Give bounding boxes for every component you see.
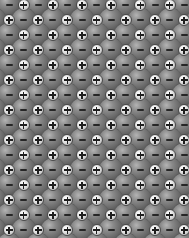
minus-icon	[49, 49, 56, 51]
minus-icon	[137, 199, 144, 201]
minus-icon	[181, 184, 188, 186]
minus-icon	[137, 139, 144, 141]
minus-icon	[20, 49, 27, 51]
plus-icon	[64, 227, 71, 234]
plus-icon	[35, 107, 42, 114]
plus-icon	[166, 212, 173, 219]
cation-sphere	[120, 164, 132, 176]
minus-icon	[64, 154, 71, 156]
plus-icon	[122, 17, 129, 24]
minus-icon	[152, 64, 159, 66]
plus-icon	[79, 92, 86, 99]
cation-sphere	[120, 44, 132, 56]
plus-icon	[93, 137, 100, 144]
plus-icon	[20, 62, 27, 69]
cation-sphere	[3, 194, 15, 206]
plus-icon	[152, 47, 159, 54]
minus-icon	[93, 94, 100, 96]
cation-sphere	[91, 164, 103, 176]
cation-sphere	[3, 164, 15, 176]
cation-sphere	[47, 89, 59, 101]
minus-icon	[108, 109, 115, 111]
minus-icon	[166, 139, 173, 141]
minus-icon	[122, 154, 129, 156]
cation-sphere	[149, 104, 161, 116]
cation-sphere	[91, 104, 103, 116]
plus-icon	[152, 107, 159, 114]
cation-sphere	[91, 14, 103, 26]
minus-icon	[137, 109, 144, 111]
plus-icon	[181, 77, 188, 84]
minus-icon	[6, 34, 13, 36]
plus-icon	[49, 2, 56, 9]
minus-icon	[64, 4, 71, 6]
plus-icon	[93, 227, 100, 234]
minus-icon	[93, 124, 100, 126]
plus-icon	[181, 107, 188, 114]
minus-icon	[49, 229, 56, 231]
minus-icon	[152, 214, 159, 216]
minus-icon	[137, 169, 144, 171]
minus-icon	[64, 34, 71, 36]
plus-icon	[93, 77, 100, 84]
cation-sphere	[18, 59, 30, 71]
plus-icon	[93, 47, 100, 54]
minus-icon	[20, 109, 27, 111]
cation-sphere	[3, 134, 15, 146]
plus-icon	[137, 212, 144, 219]
plus-icon	[64, 77, 71, 84]
minus-icon	[93, 214, 100, 216]
plus-icon	[108, 92, 115, 99]
minus-icon	[166, 109, 173, 111]
minus-icon	[166, 49, 173, 51]
plus-icon	[122, 197, 129, 204]
cation-sphere	[164, 89, 176, 101]
cation-sphere	[120, 104, 132, 116]
minus-icon	[108, 79, 115, 81]
cation-sphere	[120, 14, 132, 26]
minus-icon	[122, 4, 129, 6]
minus-icon	[108, 169, 115, 171]
plus-icon	[35, 197, 42, 204]
cation-sphere	[3, 104, 15, 116]
minus-icon	[166, 199, 173, 201]
ion-lattice	[0, 0, 189, 238]
plus-icon	[49, 122, 56, 129]
plus-icon	[79, 152, 86, 159]
cation-sphere	[76, 209, 88, 221]
plus-icon	[108, 152, 115, 159]
cation-sphere	[3, 14, 15, 26]
cation-sphere	[164, 179, 176, 191]
cation-sphere	[178, 164, 189, 176]
minus-icon	[20, 229, 27, 231]
minus-icon	[108, 49, 115, 51]
plus-icon	[20, 152, 27, 159]
minus-icon	[6, 4, 13, 6]
plus-icon	[122, 137, 129, 144]
cation-sphere	[149, 224, 161, 236]
cation-sphere	[47, 59, 59, 71]
minus-icon	[108, 199, 115, 201]
minus-icon	[35, 124, 42, 126]
cation-sphere	[18, 209, 30, 221]
minus-icon	[79, 79, 86, 81]
cation-sphere	[120, 134, 132, 146]
cation-sphere	[76, 59, 88, 71]
minus-icon	[181, 124, 188, 126]
cation-sphere	[3, 44, 15, 56]
plus-icon	[6, 197, 13, 204]
cation-sphere	[47, 0, 59, 11]
plus-icon	[6, 167, 13, 174]
minus-icon	[49, 199, 56, 201]
plus-icon	[152, 17, 159, 24]
plus-icon	[137, 32, 144, 39]
plus-icon	[166, 32, 173, 39]
minus-icon	[6, 184, 13, 186]
minus-icon	[166, 169, 173, 171]
plus-icon	[166, 152, 173, 159]
minus-icon	[79, 229, 86, 231]
cation-sphere	[178, 104, 189, 116]
cation-sphere	[3, 224, 15, 236]
minus-icon	[93, 154, 100, 156]
plus-icon	[35, 137, 42, 144]
